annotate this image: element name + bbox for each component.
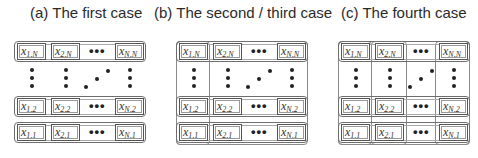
cell-x-N-2: xN,2 xyxy=(277,98,306,115)
cell-x-N-2: xN,2 xyxy=(439,98,468,115)
vertical-dot xyxy=(290,76,294,80)
vertical-dot xyxy=(452,68,456,72)
panel-a-title: (a) The first case xyxy=(30,4,142,21)
vertical-dot xyxy=(354,76,358,80)
vertical-dot xyxy=(192,84,196,88)
diagonal-dot xyxy=(84,85,88,89)
cell-x-2-N: x2,N xyxy=(375,43,404,60)
vertical-dot xyxy=(30,68,34,72)
cell-x-2-2: x2,2 xyxy=(375,98,404,115)
cell-x-1-2: x1,2 xyxy=(17,98,46,115)
vertical-dot xyxy=(388,76,392,80)
cell-x-2-2: x2,2 xyxy=(213,98,242,115)
diagonal-dot xyxy=(408,85,412,89)
vertical-dot xyxy=(30,76,34,80)
vertical-dot xyxy=(64,68,68,72)
horizontal-ellipsis: ••• xyxy=(251,124,268,139)
cell-x-2-1: x2,1 xyxy=(213,124,242,141)
cell-x-1-1: x1,1 xyxy=(179,124,208,141)
cell-x-N-1: xN,1 xyxy=(439,124,468,141)
cell-x-N-1: xN,1 xyxy=(277,124,306,141)
cell-x-1-N: x1,N xyxy=(341,43,370,60)
panel-a-diagram: x1,Nx2,NxN,N•••x1,2x2,2xN,2•••x1,1x2,1xN… xyxy=(14,41,148,145)
vertical-dot xyxy=(64,76,68,80)
vertical-dot xyxy=(452,84,456,88)
vertical-dot xyxy=(354,68,358,72)
diagonal-dot xyxy=(246,85,250,89)
cell-x-1-1: x1,1 xyxy=(341,124,370,141)
vertical-dot xyxy=(354,84,358,88)
vertical-dot xyxy=(388,68,392,72)
cell-x-1-1: x1,1 xyxy=(17,124,46,141)
diagonal-dot xyxy=(106,69,110,73)
horizontal-ellipsis: ••• xyxy=(89,124,106,139)
vertical-dot xyxy=(192,68,196,72)
horizontal-ellipsis: ••• xyxy=(89,98,106,113)
vertical-dot xyxy=(388,84,392,88)
vertical-dot xyxy=(452,76,456,80)
vertical-dot xyxy=(290,68,294,72)
cell-x-N-2: xN,2 xyxy=(115,98,144,115)
horizontal-ellipsis: ••• xyxy=(413,98,430,113)
panel-b-diagram: x1,Nx2,NxN,N•••x1,2x2,2xN,2•••x1,1x2,1xN… xyxy=(176,41,310,145)
cell-x-N-N: xN,N xyxy=(115,43,144,60)
cell-x-N-1: xN,1 xyxy=(115,124,144,141)
cell-x-1-N: x1,N xyxy=(17,43,46,60)
cell-x-1-N: x1,N xyxy=(179,43,208,60)
diagonal-dot xyxy=(257,77,261,81)
horizontal-ellipsis: ••• xyxy=(413,124,430,139)
panel-c-diagram: x1,Nx2,NxN,N•••x1,2x2,2xN,2•••x1,1x2,1xN… xyxy=(338,41,472,145)
diagonal-dot xyxy=(268,69,272,73)
cell-x-N-N: xN,N xyxy=(277,43,306,60)
cell-x-1-2: x1,2 xyxy=(341,98,370,115)
cell-x-2-2: x2,2 xyxy=(51,98,80,115)
cell-x-2-1: x2,1 xyxy=(375,124,404,141)
cell-x-2-N: x2,N xyxy=(51,43,80,60)
cell-x-2-N: x2,N xyxy=(213,43,242,60)
vertical-dot xyxy=(226,68,230,72)
diagonal-dot xyxy=(430,69,434,73)
vertical-dot xyxy=(226,76,230,80)
panel-c-title: (c) The fourth case xyxy=(341,4,467,21)
diagonal-dot xyxy=(95,77,99,81)
cell-x-N-N: xN,N xyxy=(439,43,468,60)
horizontal-ellipsis: ••• xyxy=(89,43,106,58)
vertical-dot xyxy=(64,84,68,88)
horizontal-ellipsis: ••• xyxy=(413,43,430,58)
vertical-dot xyxy=(290,84,294,88)
vertical-dot xyxy=(128,68,132,72)
cell-x-2-1: x2,1 xyxy=(51,124,80,141)
horizontal-ellipsis: ••• xyxy=(251,98,268,113)
vertical-dot xyxy=(226,84,230,88)
panel-b-title: (b) The second / third case xyxy=(154,4,332,21)
vertical-dot xyxy=(30,84,34,88)
vertical-dot xyxy=(128,84,132,88)
horizontal-ellipsis: ••• xyxy=(251,43,268,58)
vertical-dot xyxy=(128,76,132,80)
vertical-dot xyxy=(192,76,196,80)
cell-x-1-2: x1,2 xyxy=(179,98,208,115)
diagonal-dot xyxy=(419,77,423,81)
